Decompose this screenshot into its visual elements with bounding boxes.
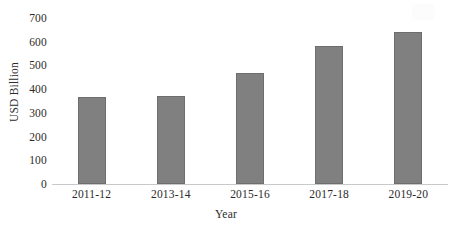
bar-chart: USD Billion 0100200300400500600700 2011-… — [0, 0, 452, 235]
y-axis-tick-label: 100 — [29, 154, 47, 166]
y-axis-tick-label: 300 — [29, 107, 47, 119]
x-axis-tick-label: 2013-14 — [151, 188, 191, 200]
bar — [315, 46, 343, 184]
x-axis-line — [52, 184, 448, 185]
bars-layer — [52, 18, 448, 184]
x-axis-tick-label: 2015-16 — [230, 188, 270, 200]
x-axis-tick-label: 2011-12 — [72, 188, 111, 200]
bar — [157, 96, 185, 184]
y-axis-tick-label: 700 — [29, 12, 47, 24]
bar — [236, 73, 264, 184]
y-axis-tick-label: 400 — [29, 83, 47, 95]
y-axis-tick-label: 0 — [41, 178, 47, 190]
y-axis-tick-label: 500 — [29, 59, 47, 71]
bar — [78, 97, 106, 184]
x-axis-title: Year — [0, 208, 452, 220]
x-axis-tick-label: 2019-20 — [389, 188, 429, 200]
y-axis-tick-labels: 0100200300400500600700 — [0, 0, 47, 235]
y-axis-tick-label: 600 — [29, 36, 47, 48]
bar — [394, 32, 422, 184]
x-axis-tick-label: 2017-18 — [309, 188, 349, 200]
y-axis-tick-label: 200 — [29, 131, 47, 143]
